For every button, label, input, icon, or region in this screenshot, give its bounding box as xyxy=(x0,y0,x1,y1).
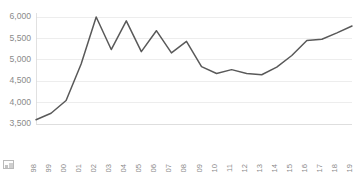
x-axis-tick-label: 1999 xyxy=(44,164,53,172)
x-axis-tick-label: 2003 xyxy=(104,164,113,172)
x-axis-tick-label: 2012 xyxy=(240,164,249,172)
axis-lines xyxy=(36,13,352,124)
x-axis-tick-label: 2015 xyxy=(285,164,294,172)
line-chart-plot: 3,5004,0004,5005,0005,5006,000 199819992… xyxy=(0,0,360,172)
y-axis-tick-label: 4,000 xyxy=(9,97,31,107)
y-axis-tick-label: 4,500 xyxy=(9,75,31,85)
x-axis-tick-label: 2018 xyxy=(330,164,339,172)
series-line-series-1 xyxy=(36,17,352,120)
x-axis-tick-label: 1998 xyxy=(29,164,38,172)
y-axis-tick-label: 3,500 xyxy=(9,118,31,128)
x-axis-tick-label: 2013 xyxy=(255,164,264,172)
x-axis-tick-label: 2007 xyxy=(164,164,173,172)
y-axis-tick-label: 6,000 xyxy=(9,11,31,21)
gridlines xyxy=(36,17,352,124)
x-axis-tick-labels: 1998199920002001200220032004200520062007… xyxy=(29,164,354,172)
x-axis-tick-label: 2010 xyxy=(210,164,219,172)
x-axis-tick-label: 2006 xyxy=(149,164,158,172)
x-axis-tick-label: 2004 xyxy=(119,164,128,172)
y-axis-tick-label: 5,500 xyxy=(9,33,31,43)
x-axis-tick-label: 2005 xyxy=(134,164,143,172)
x-axis-tick-label: 2017 xyxy=(315,164,324,172)
y-axis-tick-labels: 3,5004,0004,5005,0005,5006,000 xyxy=(9,11,31,128)
x-axis-tick-label: 2016 xyxy=(300,164,309,172)
x-axis-tick-label: 2002 xyxy=(89,164,98,172)
chart-figure: 3,5004,0004,5005,0005,5006,000 199819992… xyxy=(0,0,360,172)
x-axis-tick-label: 2014 xyxy=(270,164,279,172)
x-axis-tick-label: 2019 xyxy=(345,164,354,172)
data-series xyxy=(36,17,352,120)
y-axis-tick-label: 5,000 xyxy=(9,54,31,64)
x-axis-tick-label: 2000 xyxy=(59,164,68,172)
x-axis-tick-label: 2009 xyxy=(195,164,204,172)
x-axis-tick-label: 2008 xyxy=(179,164,188,172)
x-axis-tick-label: 2001 xyxy=(74,164,83,172)
broken-image-icon xyxy=(3,160,14,169)
x-axis-tick-label: 2011 xyxy=(225,164,234,172)
